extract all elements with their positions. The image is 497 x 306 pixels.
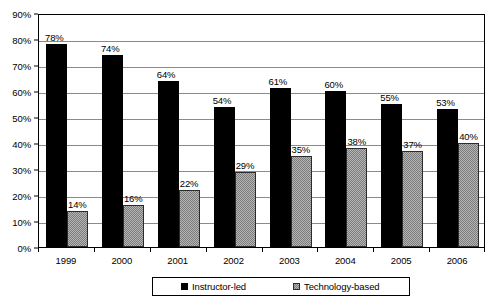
bar-group: 61%35%: [263, 15, 319, 247]
x-axis-category-label: 2002: [206, 255, 262, 266]
bar-group: 74%16%: [95, 15, 151, 247]
y-axis-tick-label: 90%: [12, 9, 31, 20]
bar-groups: 78%14%74%16%64%22%54%29%61%35%60%38%55%3…: [39, 15, 484, 247]
x-axis-category-label: 2003: [262, 255, 318, 266]
chart-legend: Instructor-ledTechnology-based: [152, 277, 410, 296]
x-axis-tick-mark: [262, 248, 263, 252]
legend-label: Instructor-led: [192, 281, 246, 292]
bar-value-label: 35%: [292, 144, 311, 155]
bar-value-label: 74%: [101, 43, 120, 54]
bar-value-label: 38%: [347, 136, 366, 147]
x-axis-tick-mark: [94, 248, 95, 252]
x-axis-tick-mark: [429, 248, 430, 252]
y-axis-tick-label: 0%: [17, 243, 31, 254]
bar-value-label: 53%: [436, 97, 455, 108]
x-axis-category-label: 2001: [150, 255, 206, 266]
bar-value-label: 55%: [380, 92, 399, 103]
x-axis-tick-mark: [484, 248, 485, 252]
bar-value-label: 37%: [403, 139, 422, 150]
y-axis-tick-label: 10%: [12, 217, 31, 228]
bar-instructor-led: [325, 91, 346, 247]
x-axis-category-label: 2006: [429, 255, 485, 266]
bar-instructor-led: [381, 104, 402, 247]
y-axis-tick-label: 20%: [12, 191, 31, 202]
bar-value-label: 54%: [213, 95, 232, 106]
bar-value-label: 22%: [180, 178, 199, 189]
gray-square-swatch: [293, 283, 300, 290]
x-axis-tick-mark: [317, 248, 318, 252]
bar-technology-based: [346, 148, 367, 247]
bar-instructor-led: [270, 88, 291, 247]
bar-instructor-led: [158, 81, 179, 247]
bar-group: 55%37%: [374, 15, 430, 247]
bar-group: 53%40%: [430, 15, 486, 247]
y-axis-tick-label: 70%: [12, 61, 31, 72]
legend-label: Technology-based: [304, 281, 380, 292]
y-axis-tick-label: 40%: [12, 139, 31, 150]
bar-value-label: 16%: [124, 193, 143, 204]
y-axis-tick-label: 60%: [12, 87, 31, 98]
bar-instructor-led: [102, 55, 123, 247]
bar-group: 54%29%: [207, 15, 263, 247]
bar-group: 64%22%: [151, 15, 207, 247]
x-axis-category-label: 1999: [38, 255, 94, 266]
bar-instructor-led: [437, 109, 458, 247]
x-axis-category-label: 2005: [373, 255, 429, 266]
bar-value-label: 29%: [236, 160, 255, 171]
bar-group: 60%38%: [318, 15, 374, 247]
x-axis-tick-mark: [150, 248, 151, 252]
bar-instructor-led: [46, 44, 67, 247]
x-axis-category-label: 2000: [94, 255, 150, 266]
bar-instructor-led: [214, 107, 235, 247]
bar-group: 78%14%: [39, 15, 95, 247]
bar-technology-based: [291, 156, 312, 247]
bar-value-label: 61%: [269, 76, 288, 87]
bar-value-label: 60%: [324, 79, 343, 90]
x-axis: 19992000200120022003200420052006: [38, 248, 485, 270]
plot-area: 78%14%74%16%64%22%54%29%61%35%60%38%55%3…: [38, 14, 485, 248]
bar-value-label: 64%: [157, 69, 176, 80]
legend-entry: Technology-based: [293, 281, 380, 292]
bar-technology-based: [458, 143, 479, 247]
y-axis-tick-label: 80%: [12, 35, 31, 46]
x-axis-tick-mark: [373, 248, 374, 252]
y-axis: 0%10%20%30%40%50%60%70%80%90%: [0, 14, 38, 248]
bar-technology-based: [402, 151, 423, 247]
black-square-swatch: [181, 283, 188, 290]
bar-technology-based: [235, 172, 256, 247]
bar-value-label: 78%: [45, 32, 64, 43]
x-axis-category-label: 2004: [317, 255, 373, 266]
bar-technology-based: [179, 190, 200, 247]
bar-value-label: 40%: [459, 131, 478, 142]
bar-value-label: 14%: [68, 199, 87, 210]
x-axis-tick-mark: [38, 248, 39, 252]
bar-chart: 0%10%20%30%40%50%60%70%80%90% 78%14%74%1…: [0, 0, 497, 306]
y-axis-tick-label: 50%: [12, 113, 31, 124]
y-axis-tick-label: 30%: [12, 165, 31, 176]
legend-entry: Instructor-led: [181, 281, 246, 292]
x-axis-tick-mark: [206, 248, 207, 252]
bar-technology-based: [123, 205, 144, 247]
bar-technology-based: [67, 211, 88, 247]
